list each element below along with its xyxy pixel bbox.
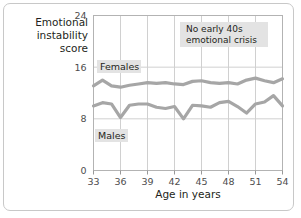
y-tick-label: 0 <box>80 165 86 176</box>
y-tick-label: 16 <box>74 62 86 73</box>
annotation-no-crisis: No early 40s emotional crisis <box>180 22 268 47</box>
x-tick-label: 39 <box>141 176 153 187</box>
males-label-text: Males <box>98 130 126 141</box>
annotation-line2: emotional crisis <box>186 35 257 45</box>
annotation-line1: No early 40s <box>186 24 243 34</box>
series-line-males <box>94 96 283 119</box>
x-tick-label: 51 <box>249 176 261 187</box>
y-tick-label: 24 <box>74 10 86 21</box>
x-tick-label: 36 <box>114 176 126 187</box>
x-tick-label: 45 <box>195 176 207 187</box>
y-tick-label: 8 <box>80 113 86 124</box>
y-axis-ticks: 081624 <box>74 10 86 176</box>
x-tick-label: 48 <box>222 176 234 187</box>
x-tick-label: 33 <box>87 176 99 187</box>
plot-area-wrapper: 3336394245485154 081624 No early 40s emo… <box>0 0 301 218</box>
series-line-females <box>94 78 283 87</box>
x-axis-ticks: 3336394245485154 <box>87 171 288 187</box>
chart-svg: 3336394245485154 081624 No early 40s emo… <box>0 0 301 218</box>
series-label-males: Males <box>95 129 128 142</box>
x-tick-label: 54 <box>276 176 288 187</box>
data-series <box>94 78 283 119</box>
x-axis-title: Age in years <box>155 188 220 200</box>
series-label-females: Females <box>97 60 141 73</box>
x-tick-label: 42 <box>168 176 180 187</box>
females-label-text: Females <box>100 61 139 72</box>
